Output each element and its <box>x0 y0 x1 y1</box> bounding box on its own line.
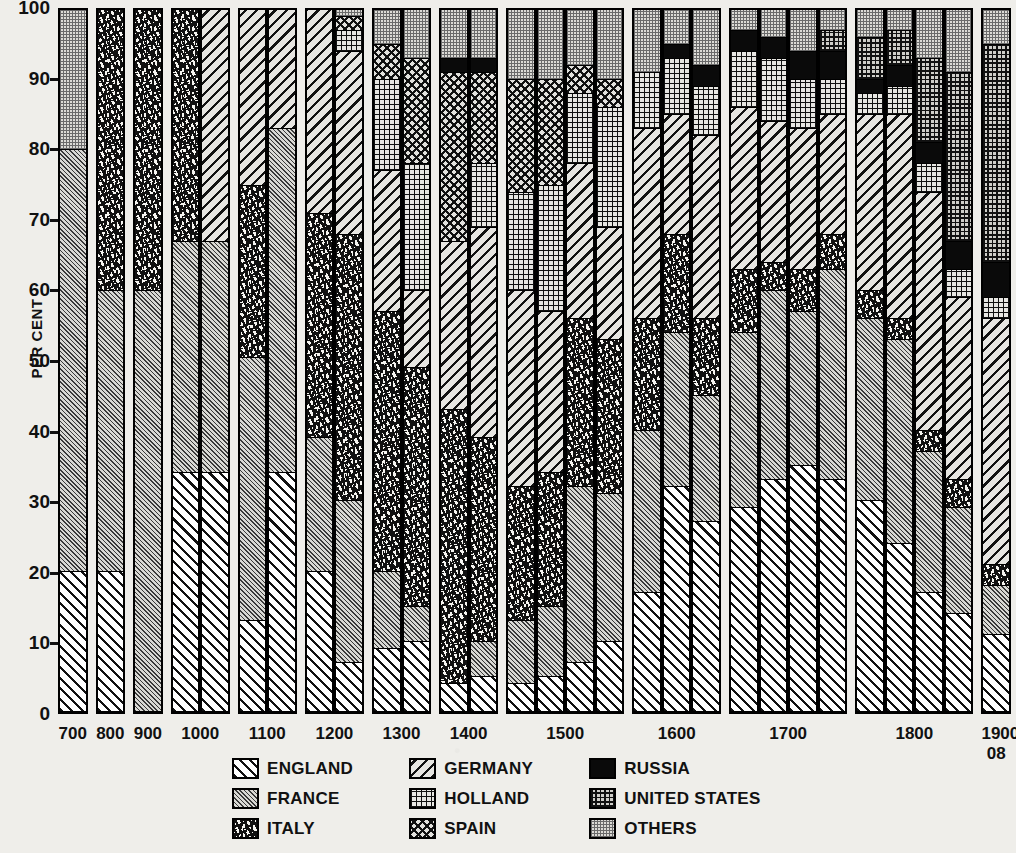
bar-segment-germany <box>946 298 972 481</box>
stacked-bar[interactable] <box>788 8 818 714</box>
legend-item-russia[interactable]: RUSSIA <box>589 758 760 779</box>
bar-segment-germany <box>664 115 690 234</box>
stacked-bar[interactable] <box>200 8 230 714</box>
legend-item-france[interactable]: FRANCE <box>232 788 353 809</box>
bar-segment-england <box>173 473 199 712</box>
bar-segment-england <box>857 501 883 712</box>
bar-segment-italy <box>441 410 467 684</box>
stacked-bar[interactable] <box>402 8 432 714</box>
bar-segment-germany <box>508 291 534 488</box>
bar-group <box>439 8 498 714</box>
bar-segment-england <box>240 621 266 712</box>
bar-group <box>855 8 973 714</box>
stacked-bar[interactable] <box>981 8 1011 714</box>
bar-segment-germany <box>307 10 333 214</box>
bar-segment-italy <box>693 319 719 396</box>
bar-segment-england <box>790 466 816 712</box>
bar-segment-holland <box>336 31 362 52</box>
bar-segment-england <box>441 684 467 712</box>
bar-segment-holland <box>887 87 913 115</box>
stacked-bar[interactable] <box>238 8 268 714</box>
stacked-bar[interactable] <box>855 8 885 714</box>
bar-segment-france <box>731 333 757 509</box>
bar-segment-italy <box>98 10 124 291</box>
stacked-bar[interactable] <box>536 8 566 714</box>
bar-segment-others <box>538 10 564 80</box>
stacked-bar[interactable] <box>372 8 402 714</box>
stacked-bar[interactable] <box>632 8 662 714</box>
y-tick-label: 40 <box>6 421 50 443</box>
stacked-bar[interactable] <box>729 8 759 714</box>
legend-item-england[interactable]: ENGLAND <box>232 758 353 779</box>
legend-item-others[interactable]: OTHERS <box>589 818 760 839</box>
bar-segment-italy <box>307 214 333 439</box>
stacked-bar[interactable] <box>171 8 201 714</box>
stacked-bar[interactable] <box>662 8 692 714</box>
bar-segment-russia <box>983 263 1009 298</box>
stacked-bar[interactable] <box>914 8 944 714</box>
bar-segment-italy <box>597 340 623 494</box>
stacked-bar[interactable] <box>469 8 499 714</box>
stacked-bar[interactable] <box>759 8 789 714</box>
legend-column: RUSSIAUNITED STATESOTHERS <box>589 758 760 839</box>
bar-segment-england <box>202 473 228 712</box>
bar-segment-russia <box>887 66 913 87</box>
stacked-bar[interactable] <box>818 8 848 714</box>
bar-segment-france <box>508 621 534 684</box>
bar-segment-italy <box>374 312 400 572</box>
stacked-bar[interactable] <box>267 8 297 714</box>
x-tick-label: 1100 <box>238 724 297 744</box>
stacked-bar[interactable] <box>305 8 335 714</box>
legend-item-italy[interactable]: ITALY <box>232 818 353 839</box>
x-tick-label: 1500 <box>506 724 624 744</box>
y-tick-label: 30 <box>6 491 50 513</box>
legend-item-united-states[interactable]: UNITED STATES <box>589 788 760 809</box>
bar-segment-france <box>202 242 228 474</box>
stacked-bar[interactable] <box>334 8 364 714</box>
bar-segment-france <box>135 291 161 712</box>
bar-group <box>729 8 847 714</box>
bar-segment-italy <box>567 319 593 487</box>
x-tick-label: 900 <box>133 724 163 744</box>
legend-item-spain[interactable]: SPAIN <box>409 818 533 839</box>
bar-segment-russia <box>664 45 690 59</box>
stacked-bar[interactable] <box>944 8 974 714</box>
bar-segment-italy <box>731 270 757 333</box>
bar-segment-others <box>693 10 719 66</box>
stacked-bar[interactable] <box>58 8 88 714</box>
stacked-bar[interactable] <box>96 8 126 714</box>
y-tick-label: 20 <box>6 562 50 584</box>
bar-segment-others <box>374 10 400 45</box>
legend-label: UNITED STATES <box>624 789 760 809</box>
bar-segment-germany <box>202 10 228 242</box>
stacked-bar[interactable] <box>691 8 721 714</box>
bar-segment-france <box>820 270 846 481</box>
bar-group <box>372 8 431 714</box>
legend-swatch-italy-icon <box>232 818 259 839</box>
bar-segment-england <box>983 635 1009 712</box>
legend-item-holland[interactable]: HOLLAND <box>409 788 533 809</box>
stacked-bar[interactable] <box>595 8 625 714</box>
stacked-bar[interactable] <box>439 8 469 714</box>
bar-segment-italy <box>538 473 564 606</box>
stacked-bar[interactable] <box>565 8 595 714</box>
bar-segment-spain <box>336 17 362 31</box>
stacked-bar[interactable] <box>133 8 163 714</box>
bar-segment-germany <box>820 115 846 234</box>
stacked-bar[interactable] <box>885 8 915 714</box>
bar-group <box>133 8 163 714</box>
legend-swatch-france-icon <box>232 788 259 809</box>
bar-segment-italy <box>471 438 497 642</box>
bar-segment-france <box>916 452 942 592</box>
stacked-bar[interactable] <box>506 8 536 714</box>
bar-segment-france <box>946 508 972 613</box>
bar-segment-holland <box>916 164 942 192</box>
legend-column: ENGLANDFRANCEITALY <box>232 758 353 839</box>
legend-item-germany[interactable]: GERMANY <box>409 758 533 779</box>
bar-segment-germany <box>761 122 787 262</box>
legend-label: ENGLAND <box>267 759 353 779</box>
x-tick-label: 1700 <box>729 724 847 744</box>
bar-segment-france <box>597 494 623 641</box>
bar-segment-spain <box>441 73 467 241</box>
bar-segment-italy <box>820 235 846 270</box>
